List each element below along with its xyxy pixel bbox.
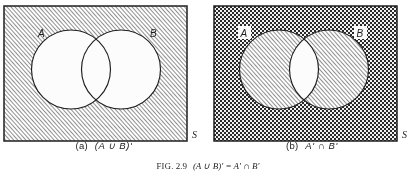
panel-b-tag: (b) [286, 140, 298, 151]
figure-2-9: A B S (a)(A ∪ B)' [0, 0, 416, 179]
venn-panel-b: A B S (b)A' ∩ B' [208, 0, 416, 160]
figure-caption: FIG.2.9(A ∪ B)' = A' ∩ B' [0, 161, 416, 171]
set-label-a: A [240, 28, 248, 39]
panel-a-expression: (A ∪ B)' [95, 140, 133, 151]
venn-stage-b: A B S [208, 0, 416, 150]
panel-a-tag: (a) [76, 140, 88, 151]
universe-label-s: S [192, 129, 197, 140]
set-label-a: A [37, 28, 45, 39]
universe-label-s: S [402, 129, 407, 140]
panel-a-caption: (a)(A ∪ B)' [0, 140, 208, 151]
venn-stage-a: A B S [0, 0, 208, 150]
venn-panel-a: A B S (a)(A ∪ B)' [0, 0, 208, 160]
panel-b-caption: (b)A' ∩ B' [208, 140, 416, 151]
figure-caption-expression: (A ∪ B)' = A' ∩ B' [193, 161, 260, 171]
figure-number: 2.9 [176, 161, 187, 171]
set-label-b: B [357, 28, 364, 39]
set-label-b: B [150, 28, 157, 39]
figure-label: FIG. [157, 161, 174, 171]
venn-diagram-b: A B S [208, 0, 416, 150]
venn-diagram-a: A B S [0, 0, 208, 150]
panel-b-expression: A' ∩ B' [305, 140, 338, 151]
